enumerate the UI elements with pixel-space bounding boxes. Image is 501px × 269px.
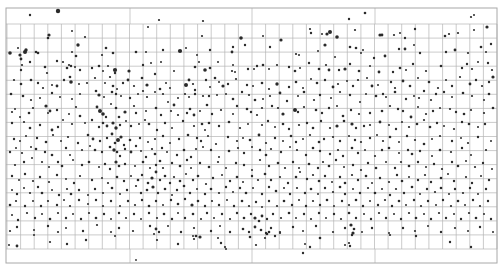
star — [320, 120, 322, 122]
star — [319, 94, 321, 96]
star — [169, 142, 171, 144]
star — [351, 147, 354, 150]
star — [95, 217, 98, 220]
star — [41, 213, 43, 215]
star — [30, 79, 33, 82]
star — [414, 230, 416, 232]
star — [317, 167, 319, 169]
star — [248, 205, 250, 207]
star — [247, 68, 249, 70]
star — [384, 199, 386, 201]
star — [142, 161, 145, 164]
star — [490, 43, 492, 45]
star — [295, 53, 297, 55]
star — [466, 63, 468, 65]
star — [124, 148, 126, 150]
star — [253, 216, 256, 219]
star — [363, 125, 365, 127]
star — [212, 177, 214, 179]
star — [123, 110, 126, 113]
star — [26, 212, 28, 214]
star — [224, 246, 226, 248]
star — [408, 176, 410, 178]
star — [477, 193, 479, 195]
star — [103, 213, 105, 215]
star — [185, 47, 187, 49]
star — [483, 99, 485, 101]
star — [354, 139, 356, 141]
star — [28, 112, 31, 115]
star — [369, 65, 371, 67]
star — [277, 162, 280, 165]
star — [114, 235, 116, 237]
star — [69, 76, 72, 79]
star — [308, 62, 310, 64]
star — [417, 106, 419, 108]
star — [159, 160, 162, 163]
star — [189, 108, 192, 111]
star — [487, 62, 489, 64]
star — [82, 230, 84, 232]
star — [364, 149, 366, 151]
star — [242, 181, 244, 183]
star — [281, 112, 284, 115]
star — [432, 110, 434, 112]
star — [148, 205, 151, 208]
star — [454, 188, 456, 190]
star — [13, 79, 15, 81]
star — [423, 213, 425, 215]
star — [371, 85, 374, 88]
star — [391, 205, 393, 207]
star — [393, 213, 395, 215]
star — [461, 67, 463, 69]
star — [229, 180, 231, 182]
star — [159, 179, 161, 181]
star — [276, 64, 278, 66]
star — [491, 69, 493, 71]
star — [103, 96, 105, 98]
star — [312, 174, 314, 176]
star — [167, 225, 169, 227]
star — [375, 95, 378, 98]
star — [451, 96, 453, 98]
star — [298, 199, 300, 201]
star — [218, 81, 220, 83]
star — [348, 242, 350, 244]
star — [216, 94, 218, 96]
star — [188, 96, 190, 98]
star — [279, 176, 281, 178]
star — [425, 70, 427, 72]
star — [118, 212, 120, 214]
star — [396, 174, 398, 176]
star — [29, 127, 32, 130]
star — [295, 217, 297, 219]
star — [228, 121, 231, 124]
star — [328, 165, 331, 168]
star — [302, 138, 304, 140]
star — [441, 168, 443, 170]
star — [448, 33, 450, 35]
star — [389, 105, 391, 107]
star — [477, 136, 479, 138]
star — [8, 244, 10, 246]
star — [339, 140, 341, 142]
star — [144, 119, 146, 121]
star — [298, 54, 300, 56]
star — [220, 109, 222, 111]
star — [98, 166, 100, 168]
star — [118, 165, 121, 168]
star — [155, 200, 157, 202]
star — [445, 217, 447, 219]
star — [115, 93, 117, 95]
star — [214, 77, 217, 80]
star — [457, 165, 460, 168]
star — [145, 156, 147, 158]
star — [366, 77, 368, 79]
star — [399, 32, 401, 34]
star — [417, 161, 419, 163]
star — [408, 126, 410, 128]
star — [335, 159, 337, 161]
star — [401, 180, 404, 183]
star — [104, 82, 106, 84]
star — [69, 80, 73, 84]
